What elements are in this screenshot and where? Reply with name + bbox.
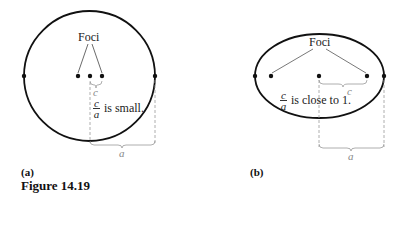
vertex-right-point [382,74,386,78]
vertex-left-point [22,74,26,78]
panel-b-label: (b) [250,166,263,178]
panel-a-foci-label: Foci [78,30,99,45]
ratio-denominator: a [94,109,100,119]
center-point [317,74,321,78]
ratio-denominator: a [281,101,287,111]
panel-a-label: (a) [21,166,34,178]
panel-b-a-label: a [348,150,354,162]
foci-leader-right [92,44,102,73]
vertex-right-point [153,74,157,78]
ratio-fraction: c a [280,90,287,111]
foci-leader-left [272,49,313,73]
focus-left-point [269,74,273,78]
panel-b-foci-label: Foci [309,35,330,50]
ratio-text: is small. [104,101,144,116]
foci-leader-left [78,44,88,73]
c-brace [319,80,367,87]
foci-leader-right [326,49,366,73]
ratio-text: is close to 1. [291,93,351,108]
vertex-left-point [253,74,257,78]
ratio-fraction: c a [93,98,100,119]
figure-caption: Figure 14.19 [21,178,90,194]
focus-right-point [365,74,369,78]
center-point [88,74,92,78]
panel-a-ratio-note: c a is small. [93,98,144,119]
panel-a-a-label: a [119,147,125,159]
focus-left-point [76,74,80,78]
focus-right-point [100,74,104,78]
panel-b-ratio-note: c a is close to 1. [280,90,351,111]
